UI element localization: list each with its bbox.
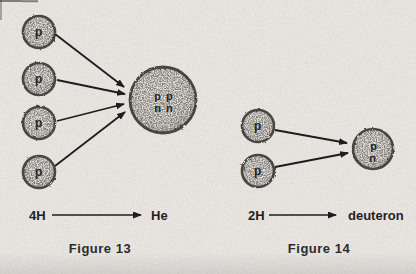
proton-label: p <box>254 119 262 133</box>
deuteron-neutron-label: n <box>369 152 377 164</box>
proton-label: p <box>35 25 43 39</box>
figure13-equation-lhs: 4H <box>29 208 46 223</box>
helium-neutrons-label: n n <box>154 102 174 114</box>
fusion-diagram-canvas: p p p p p <box>0 0 416 274</box>
scanned-textbook-diagram-page: p p p p p <box>0 0 416 274</box>
proton-label: p <box>35 72 43 86</box>
helium-protons-label: p p <box>154 90 174 102</box>
proton-label: p <box>35 116 43 130</box>
scan-shadow-bottom <box>0 252 416 274</box>
proton-label: p <box>35 165 43 179</box>
paper-grain-texture <box>0 0 416 274</box>
figure14-equation-rhs: deuteron <box>348 208 404 223</box>
figure14-equation-lhs: 2H <box>248 208 265 223</box>
deuteron-proton-label: p <box>370 140 378 152</box>
figure13-equation-rhs: He <box>151 208 168 223</box>
proton-label: p <box>254 164 262 178</box>
